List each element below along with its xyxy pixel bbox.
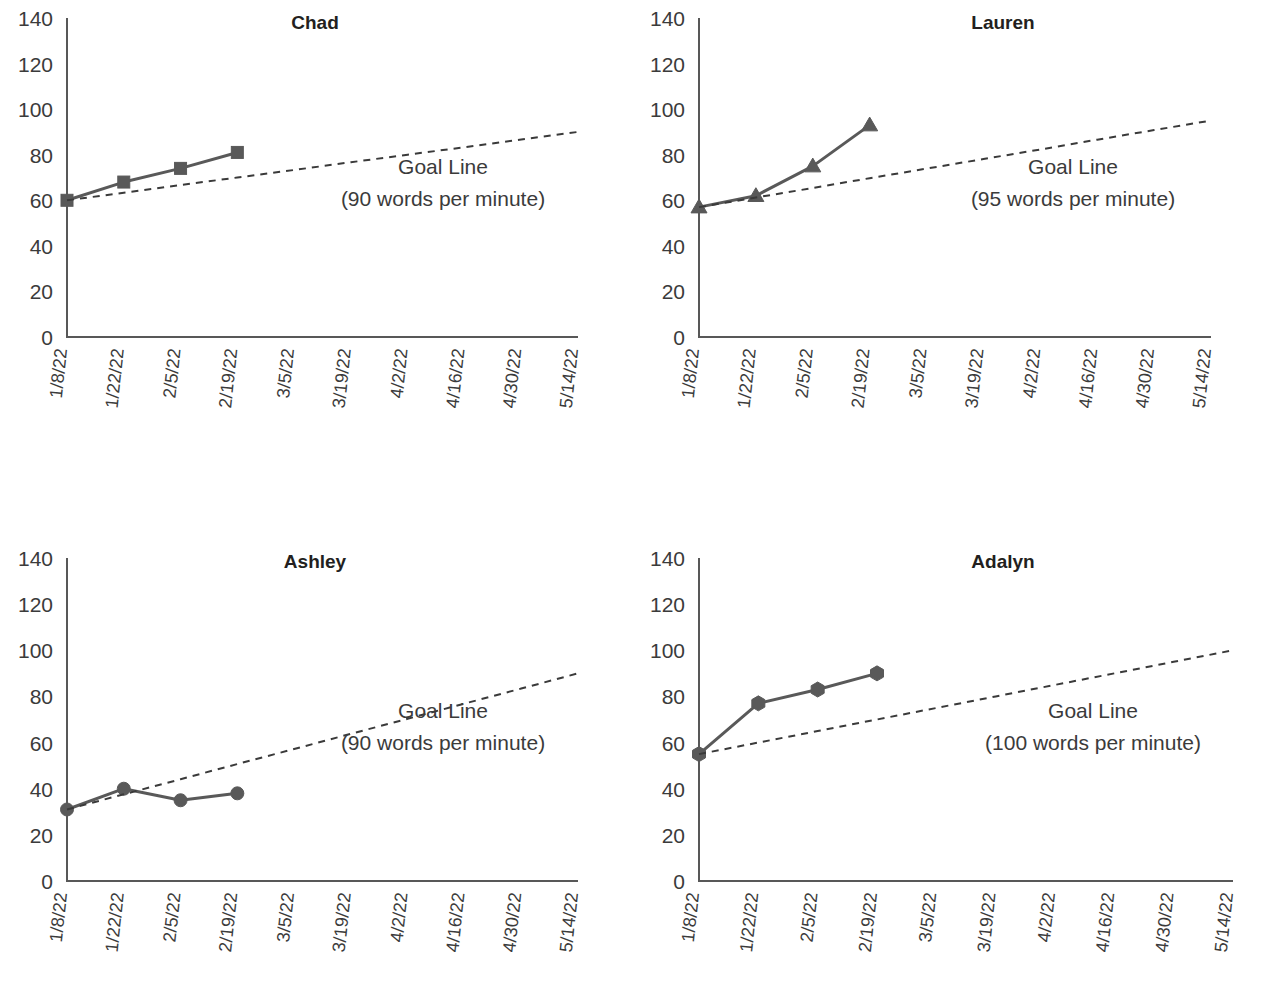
y-axis-tick-label: 100 bbox=[650, 98, 685, 121]
x-axis-tick-label: 4/30/22 bbox=[1151, 891, 1177, 953]
x-axis-tick-label: 2/19/22 bbox=[855, 891, 881, 953]
panel-adalyn: 0204060801001201401/8/221/22/222/5/222/1… bbox=[633, 520, 1266, 983]
x-axis-tick-label: 2/19/22 bbox=[215, 347, 241, 409]
chart-chad: 0204060801001201401/8/221/22/222/5/222/1… bbox=[0, 0, 633, 520]
panel-ashley: 0204060801001201401/8/221/22/222/5/222/1… bbox=[0, 520, 633, 983]
data-point-marker bbox=[174, 794, 187, 807]
y-axis-tick-label: 140 bbox=[650, 7, 685, 30]
y-axis-tick-label: 0 bbox=[41, 326, 53, 349]
y-axis-tick-label: 140 bbox=[650, 547, 685, 570]
x-axis-tick-label: 4/30/22 bbox=[499, 891, 525, 953]
goal-line-sublabel: (95 words per minute) bbox=[971, 187, 1175, 210]
y-axis-tick-label: 120 bbox=[18, 53, 53, 76]
x-axis-tick-label: 4/16/22 bbox=[1092, 891, 1118, 953]
y-axis-tick-label: 120 bbox=[650, 593, 685, 616]
data-point-marker bbox=[175, 162, 187, 174]
y-axis-tick-label: 80 bbox=[662, 685, 685, 708]
progress-line bbox=[699, 125, 870, 207]
goal-line-sublabel: (100 words per minute) bbox=[985, 731, 1201, 754]
y-axis-tick-label: 20 bbox=[30, 280, 53, 303]
x-axis-tick-label: 2/19/22 bbox=[215, 891, 241, 953]
x-axis-tick-label: 4/2/22 bbox=[387, 347, 412, 399]
x-axis-tick-label: 5/14/22 bbox=[1189, 347, 1215, 409]
x-axis-tick-label: 4/16/22 bbox=[1075, 347, 1101, 409]
goal-line-label: Goal Line bbox=[1028, 155, 1118, 178]
y-axis-tick-label: 120 bbox=[18, 593, 53, 616]
x-axis-tick-label: 1/22/22 bbox=[102, 347, 128, 409]
x-axis-tick-label: 1/8/22 bbox=[46, 891, 71, 943]
data-point-marker bbox=[748, 188, 764, 202]
y-axis-tick-label: 140 bbox=[18, 7, 53, 30]
x-axis-tick-label: 5/14/22 bbox=[556, 347, 582, 409]
y-axis-tick-label: 100 bbox=[18, 98, 53, 121]
y-axis-tick-label: 60 bbox=[30, 732, 53, 755]
data-point-marker bbox=[862, 117, 878, 131]
y-axis-tick-label: 140 bbox=[18, 547, 53, 570]
goal-line-label: Goal Line bbox=[398, 699, 488, 722]
x-axis-tick-label: 1/8/22 bbox=[678, 347, 703, 399]
x-axis-tick-label: 2/19/22 bbox=[847, 347, 873, 409]
y-axis-tick-label: 40 bbox=[30, 778, 53, 801]
x-axis-tick-label: 4/2/22 bbox=[387, 891, 412, 943]
y-axis-tick-label: 0 bbox=[673, 870, 685, 893]
x-axis-tick-label: 2/5/22 bbox=[792, 347, 817, 399]
panel-chad: 0204060801001201401/8/221/22/222/5/222/1… bbox=[0, 0, 633, 520]
x-axis-tick-label: 3/19/22 bbox=[329, 347, 355, 409]
y-axis-tick-label: 0 bbox=[673, 326, 685, 349]
x-axis-tick-label: 3/5/22 bbox=[273, 347, 298, 399]
y-axis-tick-label: 120 bbox=[650, 53, 685, 76]
x-axis-tick-label: 1/8/22 bbox=[678, 891, 703, 943]
progress-line bbox=[699, 673, 877, 754]
x-axis-tick-label: 3/5/22 bbox=[905, 347, 930, 399]
y-axis-tick-label: 20 bbox=[30, 824, 53, 847]
y-axis-tick-label: 40 bbox=[662, 778, 685, 801]
data-point-marker bbox=[752, 696, 765, 711]
data-point-marker bbox=[117, 782, 130, 795]
x-axis-tick-label: 4/30/22 bbox=[1132, 347, 1158, 409]
x-axis-tick-label: 4/2/22 bbox=[1019, 347, 1044, 399]
y-axis-tick-label: 100 bbox=[18, 639, 53, 662]
panel-lauren: 0204060801001201401/8/221/22/222/5/222/1… bbox=[633, 0, 1266, 520]
x-axis-tick-label: 1/22/22 bbox=[102, 891, 128, 953]
y-axis-tick-label: 0 bbox=[41, 870, 53, 893]
progress-line bbox=[67, 152, 237, 200]
x-axis-tick-label: 4/2/22 bbox=[1034, 891, 1059, 943]
chart-title: Adalyn bbox=[971, 551, 1034, 572]
chart-adalyn: 0204060801001201401/8/221/22/222/5/222/1… bbox=[633, 520, 1266, 983]
data-point-marker bbox=[871, 666, 884, 681]
chart-axes bbox=[699, 18, 1211, 337]
chart-title: Ashley bbox=[284, 551, 347, 572]
x-axis-tick-label: 5/14/22 bbox=[1211, 891, 1237, 953]
x-axis-tick-label: 1/8/22 bbox=[46, 347, 71, 399]
chart-axes bbox=[67, 558, 578, 881]
y-axis-tick-label: 40 bbox=[662, 235, 685, 258]
y-axis-tick-label: 40 bbox=[30, 235, 53, 258]
y-axis-tick-label: 80 bbox=[30, 685, 53, 708]
x-axis-tick-label: 2/5/22 bbox=[159, 891, 184, 943]
x-axis-tick-label: 5/14/22 bbox=[556, 891, 582, 953]
y-axis-tick-label: 60 bbox=[30, 189, 53, 212]
chart-title: Chad bbox=[291, 12, 339, 33]
y-axis-tick-label: 20 bbox=[662, 824, 685, 847]
goal-line-sublabel: (90 words per minute) bbox=[341, 731, 545, 754]
y-axis-tick-label: 60 bbox=[662, 732, 685, 755]
y-axis-tick-label: 100 bbox=[650, 639, 685, 662]
chart-lauren: 0204060801001201401/8/221/22/222/5/222/1… bbox=[633, 0, 1266, 520]
x-axis-tick-label: 3/5/22 bbox=[915, 891, 940, 943]
chart-grid: 0204060801001201401/8/221/22/222/5/222/1… bbox=[0, 0, 1266, 983]
x-axis-tick-label: 2/5/22 bbox=[797, 891, 822, 943]
x-axis-tick-label: 1/22/22 bbox=[734, 347, 760, 409]
goal-line-label: Goal Line bbox=[1048, 699, 1138, 722]
chart-axes bbox=[699, 558, 1233, 881]
x-axis-tick-label: 3/19/22 bbox=[329, 891, 355, 953]
x-axis-tick-label: 3/19/22 bbox=[961, 347, 987, 409]
x-axis-tick-label: 4/16/22 bbox=[442, 347, 468, 409]
data-point-marker bbox=[118, 176, 130, 188]
y-axis-tick-label: 60 bbox=[662, 189, 685, 212]
data-point-marker bbox=[231, 787, 244, 800]
chart-ashley: 0204060801001201401/8/221/22/222/5/222/1… bbox=[0, 520, 633, 983]
x-axis-tick-label: 3/19/22 bbox=[973, 891, 999, 953]
progress-line bbox=[67, 789, 237, 810]
goal-line-sublabel: (90 words per minute) bbox=[341, 187, 545, 210]
data-point-marker bbox=[231, 146, 243, 158]
